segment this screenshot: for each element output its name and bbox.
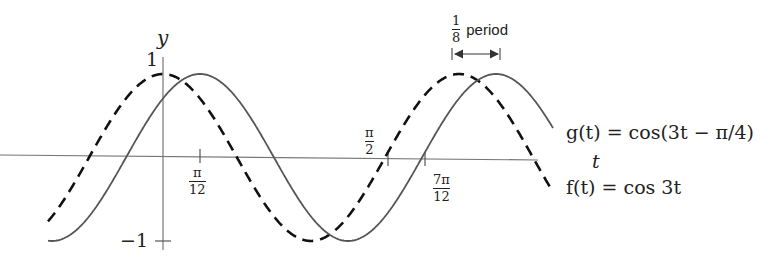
period-word: period: [466, 21, 508, 38]
t-axis: [0, 155, 538, 160]
frac-num: 1: [452, 14, 460, 28]
tick-label-pi2: π 2: [365, 126, 374, 157]
tick-label-7pi12: 7π 12: [433, 173, 450, 204]
g-legend-label: g(t) = cos(3t − π/4): [566, 121, 754, 143]
frac-den: 2: [365, 143, 373, 157]
tick-label-pi12: π 12: [189, 166, 206, 197]
frac-den: 12: [189, 183, 206, 197]
frac-num: 7π: [433, 173, 450, 187]
frac-den: 8: [452, 31, 460, 45]
period-annotation: 1 8 period: [452, 14, 508, 45]
frac-den: 12: [433, 190, 450, 204]
y-axis-label: y: [157, 26, 168, 50]
y-tick-one-label: 1: [146, 48, 158, 70]
t-axis-label: t: [592, 150, 600, 172]
f-legend-label: f(t) = cos 3t: [566, 176, 681, 198]
y-tick-minus-one-label: −1: [120, 229, 148, 251]
frac-num: π: [193, 166, 202, 180]
period-fraction: 1 8: [452, 14, 460, 45]
frac-num: π: [365, 126, 374, 140]
